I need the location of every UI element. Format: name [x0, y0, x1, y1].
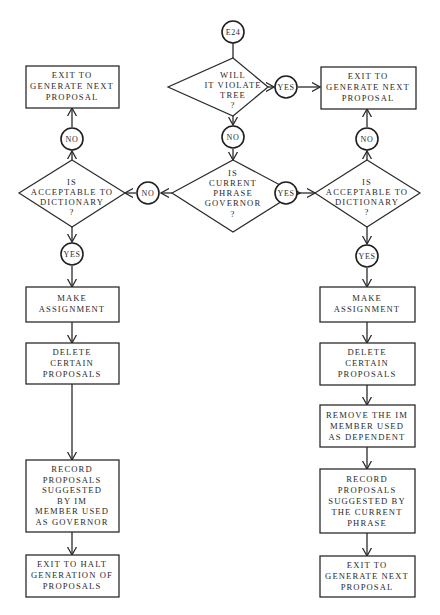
no-connector-right-dictionary: NO — [356, 128, 378, 150]
svg-text:CURRENT: CURRENT — [209, 178, 257, 188]
svg-text:RECORD: RECORD — [346, 474, 387, 484]
svg-text:?: ? — [231, 209, 236, 219]
svg-text:REMOVE THE IM: REMOVE THE IM — [326, 410, 408, 420]
no-connector-left-dictionary: NO — [61, 128, 83, 150]
svg-text:EXIT TO: EXIT TO — [52, 70, 92, 80]
svg-text:THE CURRENT: THE CURRENT — [331, 507, 402, 517]
decision-left-dictionary: IS ACCEPTABLE TO DICTIONARY ? — [19, 160, 125, 227]
svg-text:NO: NO — [66, 135, 79, 144]
process-left-delete-proposals: DELETE CERTAIN PROPOSALS — [26, 343, 119, 384]
svg-text:GENERATION OF: GENERATION OF — [31, 570, 113, 580]
svg-text:CERTAIN: CERTAIN — [50, 358, 94, 368]
process-right-record-proposals: RECORD PROPOSALS SUGGESTED BY THE CURREN… — [320, 469, 415, 533]
svg-text:PROPOSALS: PROPOSALS — [338, 369, 397, 379]
svg-text:E24: E24 — [226, 28, 241, 37]
process-right-exit-generate: EXIT TO GENERATE NEXT PROPOSAL — [320, 556, 415, 597]
no-connector-violate: NO — [222, 126, 244, 148]
no-connector-governor: NO — [137, 182, 159, 204]
svg-text:DELETE: DELETE — [52, 347, 91, 357]
svg-text:EXIT TO: EXIT TO — [348, 71, 388, 81]
svg-text:MAKE: MAKE — [352, 293, 382, 303]
svg-text:PHRASE: PHRASE — [213, 188, 253, 198]
svg-text:ACCEPTABLE TO: ACCEPTABLE TO — [31, 187, 113, 197]
process-right-delete-proposals: DELETE CERTAIN PROPOSALS — [320, 343, 415, 385]
svg-text:?: ? — [231, 100, 236, 110]
svg-text:PROPOSAL: PROPOSAL — [341, 582, 394, 592]
svg-text:?: ? — [70, 207, 75, 217]
svg-text:BY IM: BY IM — [57, 496, 87, 506]
svg-text:YES: YES — [359, 252, 376, 261]
svg-text:PROPOSALS: PROPOSALS — [43, 475, 102, 485]
svg-text:PROPOSAL: PROPOSAL — [342, 93, 395, 103]
svg-text:NO: NO — [361, 135, 374, 144]
svg-text:IT VIOLATE: IT VIOLATE — [204, 80, 261, 90]
svg-text:IS: IS — [228, 168, 238, 178]
yes-connector-right-dictionary: YES — [356, 245, 378, 267]
svg-text:NO: NO — [227, 133, 240, 142]
svg-text:ASSIGNMENT: ASSIGNMENT — [334, 304, 400, 314]
process-right-make-assignment: MAKE ASSIGNMENT — [320, 287, 415, 322]
svg-text:PROPOSAL: PROPOSAL — [46, 92, 99, 102]
process-right-remove-member: REMOVE THE IM MEMBER USED AS DEPENDENT — [320, 405, 415, 447]
svg-text:EXIT TO HALT: EXIT TO HALT — [37, 559, 107, 569]
svg-text:DICTIONARY: DICTIONARY — [40, 197, 104, 207]
svg-text:IS: IS — [362, 177, 372, 187]
svg-text:PROPOSALS: PROPOSALS — [43, 369, 102, 379]
svg-text:DELETE: DELETE — [347, 347, 386, 357]
svg-text:YES: YES — [278, 83, 295, 92]
svg-text:EXIT TO: EXIT TO — [347, 560, 387, 570]
svg-text:YES: YES — [64, 250, 81, 259]
svg-text:CERTAIN: CERTAIN — [345, 358, 389, 368]
svg-text:PROPOSALS: PROPOSALS — [43, 581, 102, 591]
yes-connector-left-dictionary: YES — [61, 243, 83, 265]
svg-text:ASSIGNMENT: ASSIGNMENT — [39, 304, 105, 314]
svg-text:YES: YES — [278, 189, 295, 198]
svg-text:GENERATE NEXT: GENERATE NEXT — [326, 82, 410, 92]
svg-text:PHRASE: PHRASE — [347, 518, 387, 528]
decision-violate-tree: WILL IT VIOLATE TREE ? — [168, 58, 268, 116]
process-left-record-proposals: RECORD PROPOSALS SUGGESTED BY IM MEMBER … — [26, 460, 119, 532]
svg-text:GOVERNOR: GOVERNOR — [205, 198, 262, 208]
svg-text:NO: NO — [142, 189, 155, 198]
svg-text:SUGGESTED BY: SUGGESTED BY — [328, 496, 405, 506]
process-left-exit-halt: EXIT TO HALT GENERATION OF PROPOSALS — [26, 555, 119, 597]
svg-text:MEMBER USED: MEMBER USED — [330, 421, 404, 431]
svg-text:AS GOVERNOR: AS GOVERNOR — [36, 517, 109, 527]
entry-connector-e24: E24 — [222, 21, 244, 43]
svg-text:GENERATE NEXT: GENERATE NEXT — [325, 571, 409, 581]
svg-text:?: ? — [365, 207, 370, 217]
svg-text:TREE: TREE — [220, 90, 246, 100]
process-top-left-exit: EXIT TO GENERATE NEXT PROPOSAL — [26, 66, 119, 108]
process-top-right-exit: EXIT TO GENERATE NEXT PROPOSAL — [321, 67, 416, 109]
svg-text:IS: IS — [67, 177, 77, 187]
svg-text:PROPOSALS: PROPOSALS — [338, 485, 397, 495]
yes-connector-governor: YES — [275, 182, 297, 204]
svg-text:ACCEPTABLE TO: ACCEPTABLE TO — [326, 187, 408, 197]
svg-text:AS DEPENDENT: AS DEPENDENT — [329, 432, 406, 442]
svg-text:GENERATE NEXT: GENERATE NEXT — [30, 81, 114, 91]
decision-right-dictionary: IS ACCEPTABLE TO DICTIONARY ? — [315, 160, 420, 227]
process-left-make-assignment: MAKE ASSIGNMENT — [26, 287, 119, 322]
svg-text:MAKE: MAKE — [57, 293, 87, 303]
svg-text:SUGGESTED: SUGGESTED — [42, 485, 102, 495]
svg-text:WILL: WILL — [220, 70, 246, 80]
yes-connector-violate: YES — [275, 76, 297, 98]
flowchart: E24 WILL IT VIOLATE TREE ? YES NO EXIT T… — [0, 0, 440, 615]
svg-text:MEMBER USED: MEMBER USED — [35, 506, 109, 516]
svg-text:RECORD: RECORD — [51, 464, 92, 474]
svg-text:DICTIONARY: DICTIONARY — [335, 197, 399, 207]
